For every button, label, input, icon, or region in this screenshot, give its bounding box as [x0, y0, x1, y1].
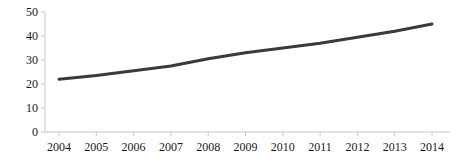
y-tick-label: 10	[8, 102, 38, 114]
x-tick-label: 2011	[300, 141, 340, 153]
x-tick-label: 2009	[226, 141, 266, 153]
x-tick-marks	[59, 132, 432, 136]
x-tick-label: 2004	[39, 141, 79, 153]
data-series-line	[59, 24, 432, 79]
x-tick-label: 2010	[263, 141, 303, 153]
y-tick-marks	[41, 12, 45, 132]
x-tick-label: 2005	[76, 141, 116, 153]
y-tick-label: 40	[8, 30, 38, 42]
x-tick-label: 2013	[375, 141, 415, 153]
x-tick-label: 2006	[114, 141, 154, 153]
axis-group	[45, 12, 450, 132]
y-tick-label: 30	[8, 54, 38, 66]
x-tick-label: 2012	[337, 141, 377, 153]
line-chart: 01020304050 2004200520062007200820092010…	[0, 0, 462, 165]
x-tick-label: 2008	[188, 141, 228, 153]
y-tick-label: 50	[8, 6, 38, 18]
x-tick-label: 2014	[412, 141, 452, 153]
x-tick-label: 2007	[151, 141, 191, 153]
y-tick-label: 0	[8, 126, 38, 138]
y-tick-label: 20	[8, 78, 38, 90]
